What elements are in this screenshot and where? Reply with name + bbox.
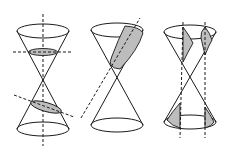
cone-circle-ellipse <box>13 14 74 146</box>
hyperbola-branch-lower-left <box>167 103 180 128</box>
cone-parabola <box>81 18 143 132</box>
conic-sections-diagram <box>0 0 232 156</box>
hyperbola-branch-upper-left <box>183 27 193 62</box>
cone-hyperbola <box>164 22 216 138</box>
parabola-section <box>110 26 143 69</box>
hyperbola-branch-upper-right <box>201 27 212 55</box>
tilted-cutting-plane <box>14 95 74 117</box>
ellipse-section <box>29 98 62 115</box>
bottom-rim <box>91 118 143 132</box>
